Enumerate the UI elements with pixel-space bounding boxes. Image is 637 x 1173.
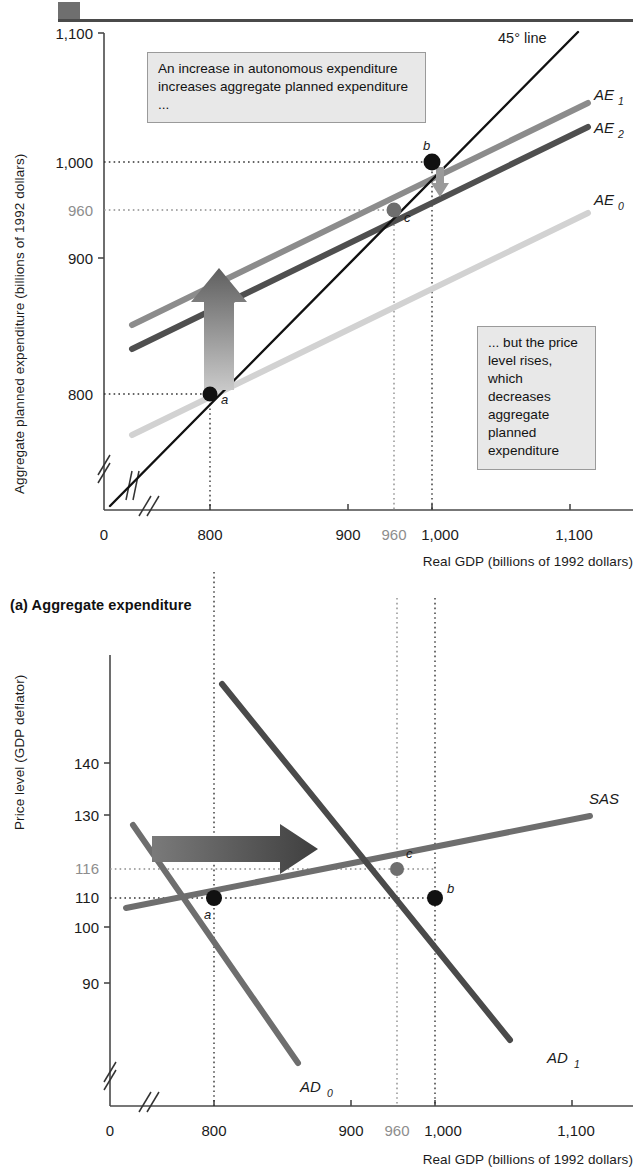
panel-b-xticklabel-1100: 1,100 [557, 1122, 595, 1139]
panel-a-point-c[interactable] [387, 203, 402, 218]
panel-b-yticklabel-110: 110 [75, 889, 99, 906]
panel-a-curve-label-ae1-sub: 1 [618, 95, 624, 107]
panel-a-curve-label-ae0-base: AE [593, 191, 615, 208]
callout-autonomous-expenditure: An increase in autonomous expenditure in… [147, 52, 426, 123]
panel-a-origin-label: 0 [100, 526, 108, 543]
panel-b-point-c[interactable] [390, 862, 404, 876]
panel-b-curve-label-ad0-base: AD [299, 1078, 321, 1095]
panel-b-x-axis-break-icon [139, 1092, 159, 1112]
panel-a-caption: (a) Aggregate expenditure [10, 597, 192, 613]
panel-b-yticklabel-100: 100 [74, 919, 99, 936]
panel-a-yticklabel-960: 960 [68, 202, 93, 219]
panel-b-xticklabel-800: 800 [201, 1122, 226, 1139]
panel-a-curve-label-ae0-sub: 0 [618, 200, 624, 212]
panel-a-yticklabel-1000: 1,000 [55, 154, 93, 171]
panel-b-xticklabel-1000: 1,000 [424, 1122, 462, 1139]
panel-a-45-line-label: 45° line [498, 30, 547, 46]
panel-b-yticklabel-116: 116 [75, 860, 99, 877]
panel-a-curve-label-ae2: AE 2 [593, 119, 624, 140]
panel-b-curve-label-ad1-base: AD [546, 1049, 568, 1066]
panel-b-point-a[interactable] [206, 890, 222, 906]
panel-a-point-b-label: b [423, 138, 430, 153]
panel-b-curve-label-ad0: AD 0 [299, 1078, 333, 1099]
panel-a-x-axis-title: Real GDP (billions of 1992 dollars) [423, 554, 633, 569]
panel-b-curve-label-ad0-sub: 0 [327, 1087, 333, 1099]
panel-a-xticklabel-800: 800 [197, 526, 222, 543]
panel-b-y-axis-title: Price level (GDP deflator) [12, 675, 27, 830]
panel-a-yticklabel-1100: 1,100 [55, 25, 93, 42]
panel-b-curve-label-ad1-sub: 1 [574, 1058, 580, 1070]
callout-price-level: ... but the price level rises, which dec… [477, 326, 596, 470]
panel-a-x-axis-break-icon [139, 496, 159, 516]
panel-a-yticklabel-900: 900 [68, 250, 93, 267]
figure-canvas: Aggregate planned expenditure (billions … [0, 0, 637, 1173]
panel-b-xticklabel-900: 900 [338, 1122, 363, 1139]
panel-b-point-a-label: a [204, 907, 211, 922]
panel-a-point-a-label: a [221, 392, 228, 407]
panel-b-point-c-label: c [406, 846, 413, 861]
panel-b-xticklabel-960: 960 [384, 1122, 409, 1139]
panel-a-curve-label-ae1-base: AE [593, 86, 615, 103]
panel-b-curve-label-sas: SAS [589, 790, 619, 807]
panel-b-x-axis-title: Real GDP (billions of 1992 dollars) [423, 1152, 633, 1167]
panel-a-shift-arrow-up [191, 268, 247, 390]
panel-b-shift-arrow-right [152, 824, 318, 874]
panel-a-point-c-label: c [404, 210, 411, 225]
panel-a-curve-label-ae2-sub: 2 [617, 128, 624, 140]
panel-a-point-a[interactable] [203, 387, 218, 402]
panel-a-point-b[interactable] [424, 154, 441, 171]
panel-a-xticklabel-900: 900 [335, 526, 360, 543]
panel-a-45line-break-icon [126, 471, 139, 500]
panel-b-yticklabel-90: 90 [82, 975, 99, 992]
panel-a-curve-label-ae1: AE 1 [593, 86, 624, 107]
panel-a-curve-label-ae0: AE 0 [593, 191, 624, 212]
panel-b-point-b[interactable] [427, 890, 443, 906]
panel-b-yticklabel-130: 130 [74, 807, 99, 824]
panel-a-curve-label-ae2-base: AE [593, 119, 615, 136]
panel-b-yticklabel-140: 140 [74, 755, 99, 772]
panel-a-xticklabel-960: 960 [381, 526, 406, 543]
panel-a-curve-ae2[interactable] [132, 127, 588, 349]
panel-b-curve-label-ad1: AD 1 [546, 1049, 580, 1070]
panel-a-yticklabel-800: 800 [68, 386, 93, 403]
panel-b-origin-label: 0 [106, 1122, 114, 1139]
panel-b-point-b-label: b [447, 881, 454, 896]
panel-a-xticklabel-1000: 1,000 [421, 526, 459, 543]
panel-a-y-axis-title: Aggregate planned expenditure (billions … [12, 154, 27, 494]
panel-a-xticklabel-1100: 1,100 [555, 526, 593, 543]
